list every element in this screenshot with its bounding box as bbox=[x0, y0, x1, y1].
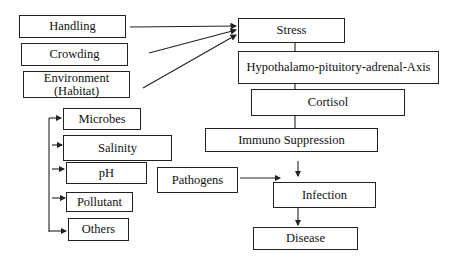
disease-label: Disease bbox=[286, 232, 325, 245]
others-box: Others bbox=[68, 218, 129, 241]
microbes-box: Microbes bbox=[63, 108, 141, 130]
salinity-box: Salinity bbox=[63, 135, 172, 161]
environment-label-line2: (Habitat) bbox=[54, 85, 99, 98]
arrow-environment-stress bbox=[143, 35, 236, 88]
pollutant-label: Pollutant bbox=[77, 196, 122, 209]
infection-box: Infection bbox=[273, 182, 376, 208]
pollutant-box: Pollutant bbox=[66, 192, 133, 212]
hpa-label: Hypothalamo-pituitory-adrenal-Axis bbox=[247, 61, 431, 74]
stress-box: Stress bbox=[238, 18, 345, 43]
others-label: Others bbox=[82, 223, 115, 236]
handling-box: Handling bbox=[19, 15, 126, 38]
disease-box: Disease bbox=[253, 227, 358, 250]
immuno-suppression-box: Immuno Suppression bbox=[205, 128, 378, 152]
immuno-suppression-label: Immuno Suppression bbox=[238, 134, 345, 147]
hpa-box: Hypothalamo-pituitory-adrenal-Axis bbox=[238, 51, 439, 84]
cortisol-label: Cortisol bbox=[308, 96, 348, 109]
pathogens-label: Pathogens bbox=[172, 174, 223, 187]
pathogens-box: Pathogens bbox=[157, 167, 238, 193]
salinity-label: Salinity bbox=[98, 142, 137, 155]
environment-box: Environment (Habitat) bbox=[23, 71, 130, 98]
arrow-crowding-stress bbox=[149, 30, 236, 53]
arrow-handling-stress bbox=[130, 26, 236, 27]
ph-box: pH bbox=[66, 162, 147, 184]
microbes-label: Microbes bbox=[78, 113, 125, 126]
handling-label: Handling bbox=[49, 20, 96, 33]
infection-label: Infection bbox=[302, 189, 347, 202]
ph-label: pH bbox=[99, 167, 114, 180]
crowding-box: Crowding bbox=[21, 43, 128, 66]
crowding-label: Crowding bbox=[50, 48, 100, 61]
stress-label: Stress bbox=[277, 24, 307, 37]
environment-label-line1: Environment bbox=[44, 72, 109, 85]
cortisol-box: Cortisol bbox=[251, 89, 405, 116]
